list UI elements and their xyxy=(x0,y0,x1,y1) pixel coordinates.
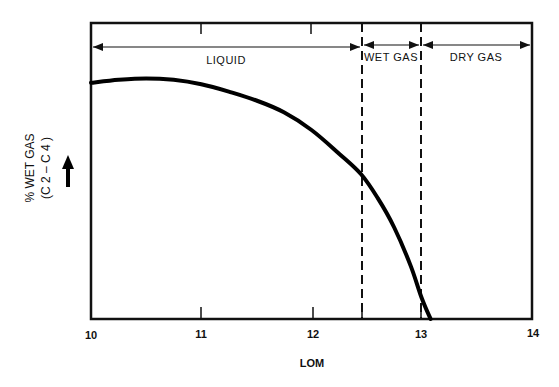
y-axis-label-line1: % WET GAS xyxy=(23,133,37,202)
x-axis-label: LOM xyxy=(300,357,324,369)
x-tick-labels: 10 11 12 13 14 xyxy=(85,327,540,341)
bottom-ticks xyxy=(201,304,421,319)
zone-label-liquid: LIQUID xyxy=(206,54,246,66)
x-tick-13: 13 xyxy=(415,328,427,340)
chart-canvas: LIQUID WET GAS DRY GAS 10 11 12 13 14 LO… xyxy=(0,0,559,387)
x-tick-14: 14 xyxy=(527,327,540,339)
x-tick-12: 12 xyxy=(307,328,319,340)
y-axis-label: % WET GAS (C 2 – C 4 ) xyxy=(23,133,53,202)
zone-label-wet-gas: WET GAS xyxy=(364,51,418,63)
y-axis-label-line2: (C 2 – C 4 ) xyxy=(39,137,53,199)
zone-label-dry-gas: DRY GAS xyxy=(450,51,503,63)
wet-gas-curve xyxy=(91,78,431,319)
x-tick-10: 10 xyxy=(85,329,97,341)
top-ticks xyxy=(201,23,311,34)
x-tick-11: 11 xyxy=(195,328,207,340)
zone-arrows xyxy=(93,45,530,47)
arrow-up-icon xyxy=(62,155,74,187)
plot-frame xyxy=(91,23,532,319)
